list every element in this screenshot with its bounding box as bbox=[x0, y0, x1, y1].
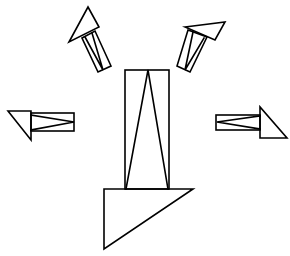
upper-left-arrow-shaft bbox=[82, 31, 111, 72]
right-arrow-v-line bbox=[217, 116, 260, 129]
center-arrow-shaft bbox=[125, 70, 169, 189]
center-arrow-head bbox=[104, 189, 193, 249]
upper-left-arrow bbox=[69, 7, 111, 72]
right-arrow-head bbox=[260, 107, 287, 138]
center-arrow-v-line bbox=[126, 70, 168, 189]
arrow-diagram bbox=[0, 0, 290, 256]
left-arrow-head bbox=[8, 111, 31, 140]
right-arrow bbox=[216, 107, 287, 138]
left-arrow bbox=[8, 111, 74, 140]
center-arrow bbox=[104, 70, 193, 249]
left-arrow-v-line bbox=[31, 115, 74, 130]
upper-right-arrow bbox=[177, 22, 225, 72]
